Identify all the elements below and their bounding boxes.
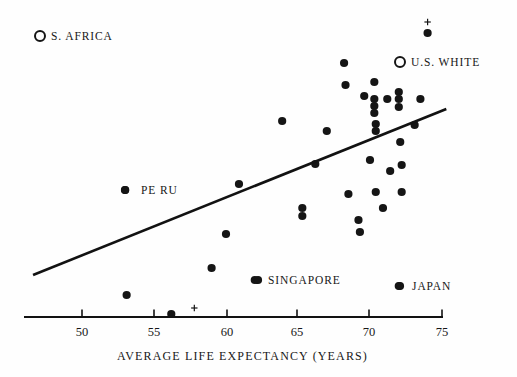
data-point-marker xyxy=(360,92,368,100)
plus-marker xyxy=(191,305,197,311)
data-point-marker xyxy=(372,188,380,196)
data-point-marker xyxy=(396,138,404,146)
data-point-marker xyxy=(398,188,406,196)
data-point-marker xyxy=(383,95,391,103)
trend-line-layer xyxy=(33,109,446,275)
data-point-marker xyxy=(123,291,131,299)
annotation-label-peru: PE RU xyxy=(141,185,178,197)
regression-trend-line xyxy=(33,109,446,275)
data-point-marker xyxy=(298,212,306,220)
annotation-marker-peru xyxy=(121,186,129,194)
annotation-marker-japan xyxy=(396,282,404,290)
data-point-marker xyxy=(222,230,230,238)
data-point-marker xyxy=(379,204,387,212)
data-point-marker xyxy=(395,95,403,103)
legend-marker-open-circle-s-africa xyxy=(35,31,45,41)
data-point-marker xyxy=(344,190,352,198)
data-point-marker xyxy=(424,29,432,37)
data-point-marker xyxy=(370,95,378,103)
scatter-plot-figure: S. AFRICA U.S. WHITE PE RU SINGAPORE JAP… xyxy=(0,0,517,377)
data-point-marker xyxy=(395,103,403,111)
data-point-marker xyxy=(356,228,364,236)
data-point-marker xyxy=(386,167,394,175)
x-axis-tick-label-65: 65 xyxy=(291,326,304,339)
data-point-marker xyxy=(341,81,349,89)
data-point-marker xyxy=(298,204,306,212)
legend-marker-open-circle-u-s-white xyxy=(395,57,405,67)
x-axis-tick-label-75: 75 xyxy=(436,326,449,339)
data-point-marker xyxy=(372,127,380,135)
data-point-marker xyxy=(370,78,378,86)
x-axis-tick-label-55: 55 xyxy=(148,326,161,339)
data-point-marker xyxy=(370,109,378,117)
x-axis-tick-label-70: 70 xyxy=(363,326,376,339)
data-point-marker xyxy=(354,216,362,224)
annotation-label-singapore: SINGAPORE xyxy=(268,275,341,287)
data-point-marker xyxy=(323,127,331,135)
data-point-marker xyxy=(235,180,243,188)
x-axis-tick-label-50: 50 xyxy=(76,326,89,339)
x-axis-layer xyxy=(24,310,443,318)
x-axis-title: AVERAGE LIFE EXPECTANCY (YEARS) xyxy=(117,350,368,362)
data-point-marker xyxy=(372,120,380,128)
x-axis-tick-label-60: 60 xyxy=(221,326,234,339)
annotation-label-japan: JAPAN xyxy=(412,281,451,293)
annotation-label-us-white: U.S. WHITE xyxy=(411,57,480,69)
data-point-marker xyxy=(208,264,216,272)
data-point-marker xyxy=(398,161,406,169)
data-point-marker xyxy=(416,95,424,103)
data-point-marker xyxy=(370,102,378,110)
data-point-marker xyxy=(366,156,374,164)
data-point-marker xyxy=(395,88,403,96)
data-point-marker xyxy=(340,59,348,67)
annotation-label-s-africa: S. AFRICA xyxy=(51,31,113,43)
data-point-marker xyxy=(278,117,286,125)
plus-marker xyxy=(424,19,430,25)
annotation-marker-singapore xyxy=(254,276,262,284)
